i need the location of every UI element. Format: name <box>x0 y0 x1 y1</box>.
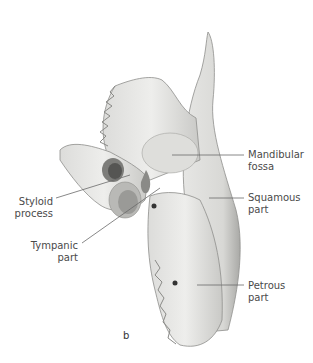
label-line: Mandibular <box>248 149 304 161</box>
label-line: Styloid <box>15 196 53 208</box>
label-line: part <box>31 252 78 264</box>
label-styloid-process: Styloid process <box>15 196 53 220</box>
temporal-bone-illustration <box>0 0 313 363</box>
label-line: fossa <box>248 161 304 173</box>
label-tympanic-part: Tympanic part <box>31 240 78 264</box>
label-mandibular-fossa: Mandibular fossa <box>248 149 304 173</box>
label-squamous-part: Squamous part <box>248 192 301 216</box>
label-line: part <box>248 204 301 216</box>
label-line: Petrous <box>248 280 285 292</box>
label-line: process <box>15 208 53 220</box>
figure-temporal-bone: Mandibular fossa Squamous part Petrous p… <box>0 0 313 363</box>
panel-letter: b <box>123 330 129 341</box>
mandibular-fossa-shape <box>142 133 198 173</box>
label-line: Squamous <box>248 192 301 204</box>
label-petrous-part: Petrous part <box>248 280 285 304</box>
label-line: part <box>248 292 285 304</box>
label-line: Tympanic <box>31 240 78 252</box>
